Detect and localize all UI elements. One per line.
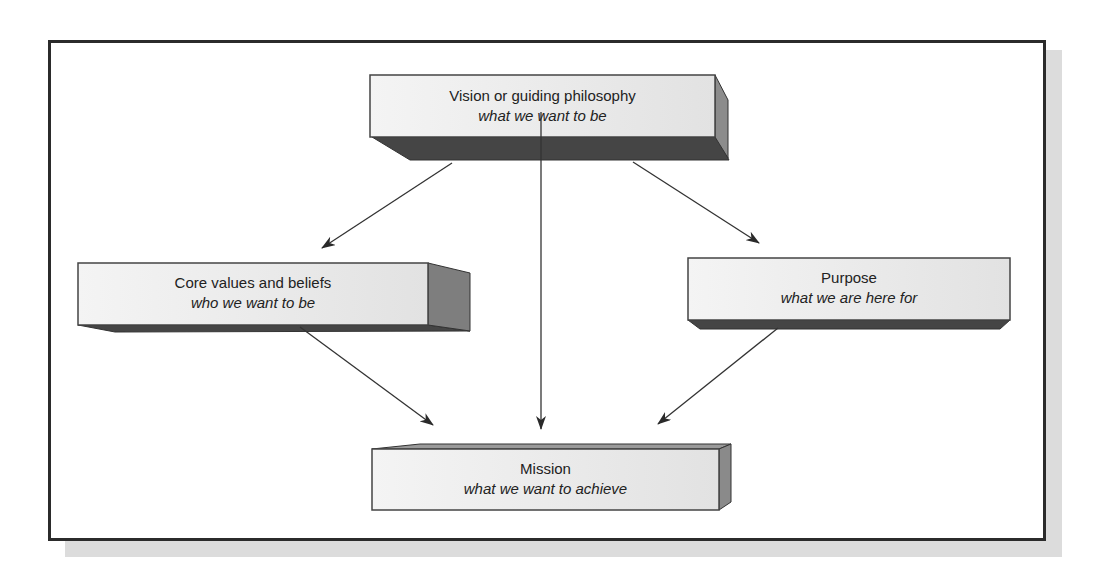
- arrow-vision-to-core: [322, 163, 452, 248]
- node-mission-title: Mission: [372, 459, 719, 479]
- node-vision-title: Vision or guiding philosophy: [370, 86, 715, 106]
- node-mission-label: Mission what we want to achieve: [372, 459, 719, 499]
- node-vision-label: Vision or guiding philosophy what we wan…: [370, 86, 715, 126]
- node-core-values-subtitle: who we want to be: [78, 293, 428, 313]
- arrow-core-to-mission: [300, 327, 433, 425]
- node-vision-subtitle: what we want to be: [370, 106, 715, 126]
- arrow-vision-to-purpose: [633, 162, 759, 243]
- node-purpose-title: Purpose: [688, 268, 1010, 288]
- node-core-values-title: Core values and beliefs: [78, 273, 428, 293]
- node-purpose-subtitle: what we are here for: [688, 288, 1010, 308]
- node-purpose-label: Purpose what we are here for: [688, 268, 1010, 308]
- arrow-purpose-to-mission: [658, 328, 778, 424]
- node-core-values-label: Core values and beliefs who we want to b…: [78, 273, 428, 313]
- node-mission-subtitle: what we want to achieve: [372, 479, 719, 499]
